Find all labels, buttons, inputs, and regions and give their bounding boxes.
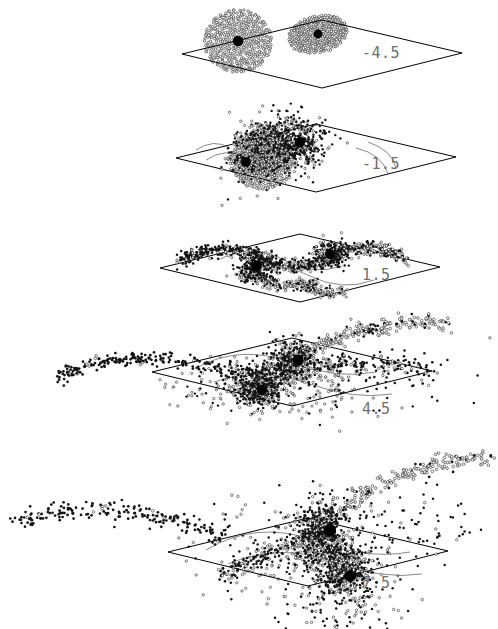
time-label-1: -4.5 [362, 44, 400, 62]
time-label-3: 1.5 [362, 266, 391, 284]
time-label-4: 4.5 [362, 400, 391, 418]
time-label-2: -1.5 [362, 155, 400, 173]
panel-5 [0, 430, 498, 629]
galaxy-merger-figure: -4.5-1.51.54.57.5 [0, 0, 498, 629]
panel-5-plot [0, 430, 498, 629]
panel-1 [0, 0, 498, 98]
reference-plane [176, 124, 456, 192]
panel-1-plot [0, 0, 498, 98]
panel-3-plot [0, 210, 498, 318]
panel-3 [0, 210, 498, 318]
panel-4-plot [0, 310, 498, 440]
panel-2 [0, 98, 498, 210]
time-label-5: 7.5 [362, 574, 391, 592]
panel-2-plot [0, 98, 498, 210]
panel-4 [0, 310, 498, 440]
